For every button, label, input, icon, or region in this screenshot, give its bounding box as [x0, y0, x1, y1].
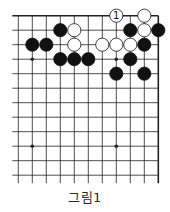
stone-disc: [138, 67, 151, 80]
star-point: [115, 144, 119, 148]
black-stone: [82, 53, 95, 66]
black-stone: [110, 67, 123, 80]
stone-disc: [68, 53, 81, 66]
white-stone: [96, 38, 109, 51]
stone-disc: [110, 67, 123, 80]
black-stone: [54, 53, 67, 66]
stone-disc: [138, 38, 151, 51]
white-stone-numbered: 1: [110, 9, 123, 22]
white-stone: [138, 9, 151, 22]
stone-disc: [138, 9, 151, 22]
black-stone: [54, 24, 67, 37]
stone-disc: [26, 38, 39, 51]
stone-disc: [96, 38, 109, 51]
go-board: 1: [0, 0, 170, 190]
black-stone: [26, 38, 39, 51]
white-stone: [138, 24, 151, 37]
stone-disc: [54, 53, 67, 66]
star-point: [31, 144, 35, 148]
star-point: [31, 57, 35, 61]
stone-disc: [152, 24, 165, 37]
star-point: [115, 57, 119, 61]
stone-disc: [68, 38, 81, 51]
figure-caption: 그림1: [0, 187, 170, 206]
stone-disc: [138, 24, 151, 37]
black-stone: [138, 67, 151, 80]
black-stone: [68, 53, 81, 66]
stone-disc: [82, 53, 95, 66]
stone-disc: [68, 24, 81, 37]
stone-disc: [124, 53, 137, 66]
move-number-label: 1: [113, 10, 119, 21]
stone-disc: [54, 24, 67, 37]
black-stone: [124, 24, 137, 37]
black-stone: [40, 38, 53, 51]
white-stone: [68, 38, 81, 51]
white-stone: [124, 38, 137, 51]
black-stone: [124, 53, 137, 66]
stone-disc: [110, 38, 123, 51]
white-stone: [68, 24, 81, 37]
white-stone: [110, 38, 123, 51]
stone-disc: [124, 24, 137, 37]
black-stone: [138, 38, 151, 51]
black-stone: [152, 24, 165, 37]
stone-disc: [40, 38, 53, 51]
stone-disc: [124, 38, 137, 51]
